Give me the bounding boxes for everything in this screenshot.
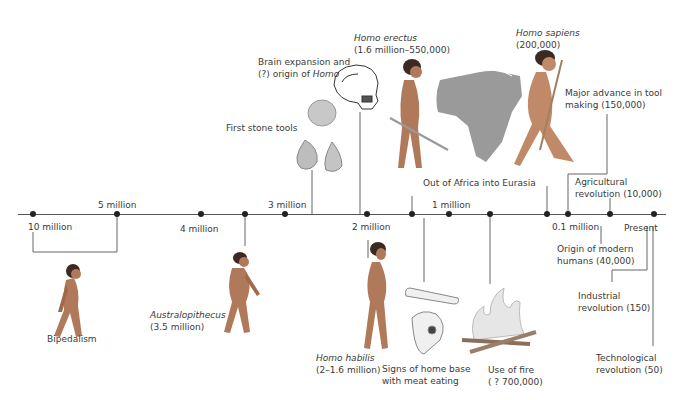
timeline-dot <box>198 211 204 217</box>
label-homo-habilis: Homo habilis (2–1.6 million) <box>316 352 380 376</box>
industrial-line2: revolution (150) <box>578 302 650 314</box>
australopithecus-date: (3.5 million) <box>150 321 226 333</box>
label-origin-modern-humans: Origin of modern humans (40,000) <box>557 243 634 267</box>
label-home-base: Signs of home base with meat eating <box>382 363 471 387</box>
timeline-dot <box>30 211 36 217</box>
homo-erectus-figure <box>390 59 448 168</box>
timeline-dot <box>282 211 288 217</box>
australopithecus-name: Australopithecus <box>150 309 226 321</box>
tool-making-line1: Major advance in tool <box>565 87 662 99</box>
erectus-date: (1.6 million–550,000) <box>354 44 450 56</box>
label-australopithecus: Australopithecus (3.5 million) <box>150 309 226 333</box>
timeline-dot <box>607 211 613 217</box>
timeline-dot <box>364 211 370 217</box>
timeline-dot <box>446 211 452 217</box>
industrial-line1: Industrial <box>578 290 650 302</box>
animal-skull-bone-illustration <box>406 288 459 354</box>
agricultural-line2: revolution (10,000) <box>575 188 662 200</box>
africa-map <box>436 70 522 162</box>
label-use-of-fire: Use of fire ( ? 700,000) <box>488 364 543 388</box>
fire-line1: Use of fire <box>488 364 543 376</box>
sapiens-name: Homo sapiens <box>516 27 580 39</box>
modern-humans-line1: Origin of modern <box>557 243 634 255</box>
homo-habilis-figure <box>364 242 388 349</box>
timeline-dot <box>565 211 571 217</box>
tick-label-2-million: 2 million <box>352 222 391 232</box>
home-base-line1: Signs of home base <box>382 363 471 375</box>
habilis-name: Homo habilis <box>316 352 380 364</box>
label-industrial-revolution: Industrial revolution (150) <box>578 290 650 314</box>
habilis-date: (2–1.6 million) <box>316 364 380 376</box>
technological-line2: revolution (50) <box>596 364 663 376</box>
fire-line2: ( ? 700,000) <box>488 376 543 388</box>
brain-line2: (?) origin of Homo <box>258 68 350 80</box>
tick-label-3-million: 3 million <box>268 200 307 210</box>
brain-line2-prefix: (?) origin of <box>258 69 313 79</box>
tick-label-1-million: 1 million <box>432 200 471 210</box>
label-out-of-africa: Out of Africa into Eurasia <box>423 177 536 189</box>
timeline-dot <box>651 211 657 217</box>
technological-line1: Technological <box>596 352 663 364</box>
timeline-dot <box>544 211 550 217</box>
home-base-line2: with meat eating <box>382 375 471 387</box>
label-agricultural-revolution: Agricultural revolution (10,000) <box>575 176 662 200</box>
brain-line2-homo: Homo <box>313 69 340 79</box>
label-technological-revolution: Technological revolution (50) <box>596 352 663 376</box>
timeline-dot <box>242 211 248 217</box>
agricultural-line1: Agricultural <box>575 176 662 188</box>
timeline-dot <box>114 211 120 217</box>
label-homo-erectus: Homo erectus (1.6 million–550,000) <box>354 32 450 56</box>
tick-label-10-million: 10 million <box>28 222 72 232</box>
tick-label-present: Present <box>624 223 658 233</box>
sapiens-date: (200,000) <box>516 39 580 51</box>
tool-making-line2: making (150,000) <box>565 99 662 111</box>
modern-humans-line2: humans (40,000) <box>557 255 634 267</box>
australopithecus-figure <box>224 252 260 333</box>
timeline-dot <box>487 211 493 217</box>
stone-tools-illustration <box>297 100 342 171</box>
tick-label-4-million: 4 million <box>180 224 219 234</box>
timeline-dot <box>409 211 415 217</box>
erectus-name: Homo erectus <box>354 32 450 44</box>
bipedal-hominid-figure <box>54 264 82 337</box>
tick-label-5-million: 5 million <box>98 200 137 210</box>
label-homo-sapiens: Homo sapiens (200,000) <box>516 27 580 51</box>
label-tool-making: Major advance in tool making (150,000) <box>565 87 662 111</box>
tick-label-0-1-million: 0.1 million <box>552 222 599 232</box>
label-first-stone-tools: First stone tools <box>226 122 297 134</box>
label-bipedalism: Bipedalism <box>47 333 97 345</box>
brain-line1: Brain expansion and <box>258 56 350 68</box>
fire-illustration <box>462 288 536 352</box>
label-brain-expansion: Brain expansion and (?) origin of Homo <box>258 56 350 80</box>
